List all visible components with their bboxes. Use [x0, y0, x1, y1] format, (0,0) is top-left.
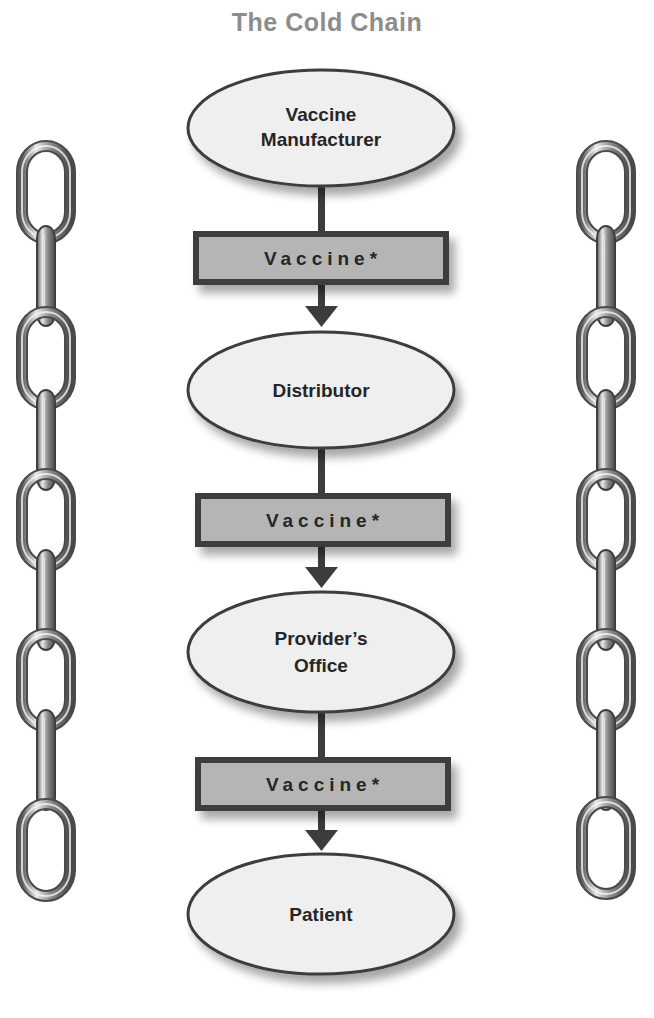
arrow-down-icon: [305, 567, 338, 588]
box-label: Vaccine*: [264, 248, 382, 269]
node-label: Provider’s: [275, 628, 368, 649]
node-label: Patient: [289, 904, 353, 925]
left-chain-icon: [22, 146, 70, 896]
arrow-down-icon: [305, 306, 338, 327]
vaccine-transfer-box-2: Vaccine*: [198, 496, 448, 544]
node-label: Office: [294, 655, 348, 676]
right-chain-icon: [582, 146, 630, 894]
node-label: Distributor: [272, 380, 370, 401]
vaccine-transfer-box-1: Vaccine*: [196, 234, 446, 282]
node-vaccine-manufacturer: Vaccine Manufacturer: [188, 70, 454, 186]
cold-chain-flowchart: Vaccine Manufacturer Distributor Provide…: [0, 0, 654, 1018]
node-label: Manufacturer: [261, 129, 382, 150]
node-providers-office: Provider’s Office: [188, 592, 454, 712]
node-distributor: Distributor: [188, 332, 454, 448]
box-label: Vaccine*: [266, 774, 384, 795]
node-patient: Patient: [188, 854, 454, 974]
arrow-down-icon: [305, 830, 338, 851]
node-label: Vaccine: [286, 104, 357, 125]
box-label: Vaccine*: [266, 510, 384, 531]
vaccine-transfer-box-3: Vaccine*: [198, 760, 448, 808]
